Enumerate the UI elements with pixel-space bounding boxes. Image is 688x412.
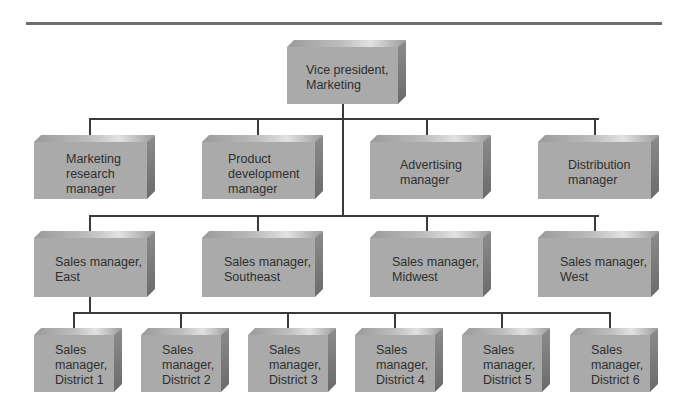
node-sales-manager-midwest: Sales manager, Midwest: [370, 231, 491, 297]
node-advertising-manager: Advertising manager: [370, 135, 491, 199]
node-marketing-research-manager: Marketing research manager: [34, 135, 155, 199]
connector: [426, 215, 428, 232]
node-label: manager,: [483, 358, 542, 373]
node-label: Southeast: [224, 270, 315, 285]
top-divider: [26, 22, 662, 25]
node-label: Distribution: [568, 158, 651, 173]
node-label: development: [228, 167, 315, 182]
node-label: District 5: [483, 373, 542, 388]
node-label: Sales manager,: [55, 255, 147, 270]
node-label: research: [66, 167, 147, 182]
node-label: manager,: [591, 358, 650, 373]
node-label: manager,: [162, 358, 221, 373]
connector: [257, 118, 259, 135]
node-label: Product: [228, 152, 315, 167]
node-label: manager,: [269, 358, 328, 373]
node-label: Midwest: [392, 270, 483, 285]
node-label: Advertising: [400, 158, 483, 173]
connector: [342, 103, 344, 216]
node-label: Sales: [55, 343, 114, 358]
node-label: Sales manager,: [560, 255, 651, 270]
connector: [89, 118, 599, 120]
node-sales-manager-district-6: Sales manager, District 6: [570, 328, 658, 392]
connector: [394, 312, 396, 329]
node-label: Sales manager,: [392, 255, 483, 270]
node-product-development-manager: Product development manager: [202, 135, 323, 199]
node-label: District 6: [591, 373, 650, 388]
node-sales-manager-district-4: Sales manager, District 4: [355, 328, 443, 392]
node-label: Sales: [376, 343, 435, 358]
node-sales-manager-district-2: Sales manager, District 2: [141, 328, 229, 392]
node-sales-manager-southeast: Sales manager, Southeast: [202, 231, 323, 297]
node-label: West: [560, 270, 651, 285]
node-label: Sales: [162, 343, 221, 358]
node-label: Marketing: [66, 152, 147, 167]
node-label: manager: [400, 173, 483, 188]
node-label: manager,: [376, 358, 435, 373]
connector: [89, 215, 91, 232]
connector: [73, 312, 75, 329]
node-label: Sales: [269, 343, 328, 358]
node-sales-manager-west: Sales manager, West: [538, 231, 659, 297]
connector: [180, 312, 182, 329]
node-label: manager: [228, 182, 315, 197]
connector: [594, 118, 596, 135]
connector: [257, 215, 259, 232]
node-label: East: [55, 270, 147, 285]
node-label: Sales: [591, 343, 650, 358]
connector: [426, 118, 428, 135]
node-label: District 1: [55, 373, 114, 388]
node-sales-manager-east: Sales manager, East: [34, 231, 155, 297]
node-label: District 2: [162, 373, 221, 388]
node-label: manager: [568, 173, 651, 188]
node-sales-manager-district-3: Sales manager, District 3: [248, 328, 336, 392]
node-label: manager: [66, 182, 147, 197]
node-sales-manager-district-1: Sales manager, District 1: [34, 328, 122, 392]
node-label: District 3: [269, 373, 328, 388]
connector: [609, 312, 611, 329]
connector: [89, 118, 91, 135]
connector: [73, 312, 611, 314]
node-label: Marketing: [306, 78, 398, 93]
connector: [287, 312, 289, 329]
connector: [594, 215, 596, 232]
connector: [501, 312, 503, 329]
node-label: Sales manager,: [224, 255, 315, 270]
connector: [89, 215, 599, 217]
node-label: manager,: [55, 358, 114, 373]
connector: [89, 295, 91, 313]
node-sales-manager-district-5: Sales manager, District 5: [462, 328, 550, 392]
node-vice-president-marketing: Vice president, Marketing: [287, 40, 406, 104]
node-distribution-manager: Distribution manager: [538, 135, 659, 199]
node-label: Vice president,: [306, 63, 398, 78]
node-label: Sales: [483, 343, 542, 358]
node-label: District 4: [376, 373, 435, 388]
